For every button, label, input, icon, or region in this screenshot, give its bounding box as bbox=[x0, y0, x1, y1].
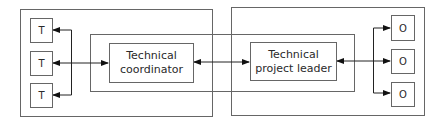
technical-coordinator-box: Technical coordinator bbox=[110, 44, 194, 83]
technical-project-leader-box: Technical project leader bbox=[251, 43, 337, 81]
o-connector bbox=[337, 28, 390, 93]
leader-line1: Technical bbox=[267, 48, 319, 61]
t-node-3: T bbox=[31, 84, 53, 108]
t-node-2: T bbox=[31, 52, 53, 76]
t-node-label: T bbox=[37, 58, 45, 69]
leader-line2: project leader bbox=[255, 62, 332, 75]
o-node-1: O bbox=[392, 16, 415, 41]
o-node-label: O bbox=[399, 89, 407, 100]
t-node-1: T bbox=[31, 19, 53, 43]
o-node-label: O bbox=[399, 23, 407, 34]
t-node-label: T bbox=[37, 90, 45, 101]
o-node-label: O bbox=[399, 56, 407, 67]
coordinator-line2: coordinator bbox=[120, 63, 184, 76]
coordinator-line1: Technical bbox=[125, 49, 177, 62]
t-connector bbox=[53, 30, 108, 95]
o-node-2: O bbox=[392, 50, 415, 74]
t-node-label: T bbox=[37, 25, 45, 36]
o-node-3: O bbox=[392, 83, 415, 107]
org-diagram: T T T Technical coordinator Technical pr… bbox=[0, 0, 443, 122]
